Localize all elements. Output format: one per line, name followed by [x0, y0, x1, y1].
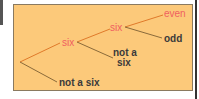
node-six-second: six — [110, 23, 122, 33]
node-not-a-six-second-line2: six — [117, 58, 131, 68]
node-six-first: six — [62, 38, 74, 48]
node-not-a-six-first: not a six — [59, 78, 100, 88]
node-even: even — [164, 9, 186, 19]
node-odd: odd — [164, 34, 182, 44]
